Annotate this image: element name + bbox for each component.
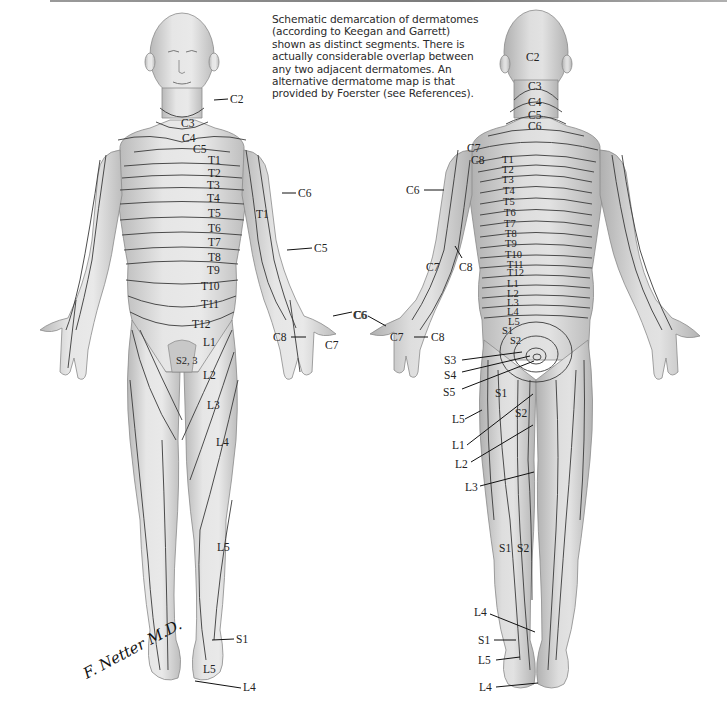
label-posterior-c6-hand: C6 (353, 309, 367, 321)
label-anterior-t2: T2 (208, 167, 221, 179)
anterior-figure (40, 13, 336, 680)
label-posterior-l2-lead: L2 (455, 458, 468, 470)
label-anterior-l5-foot: L5 (203, 663, 216, 675)
label-anterior-t1: T1 (208, 154, 221, 166)
label-posterior-c6: C6 (528, 120, 542, 132)
anterior-right-arm (242, 150, 336, 379)
label-anterior-c3: C3 (181, 117, 195, 129)
posterior-left-arm (370, 150, 472, 377)
label-anterior-c5: C5 (193, 143, 207, 155)
label-anterior-t8: T8 (208, 251, 221, 263)
label-posterior-c3: C3 (528, 80, 542, 92)
label-posterior-s1-calf: S1 (499, 542, 511, 554)
label-anterior-t4: T4 (207, 192, 220, 204)
label-anterior-s23: S2, 3 (176, 355, 198, 366)
label-anterior-t6: T6 (208, 222, 221, 234)
label-posterior-c7: C7 (467, 142, 481, 154)
label-anterior-l2: L2 (203, 369, 216, 381)
label-anterior-t3: T3 (207, 179, 220, 191)
label-anterior-c7-hand: C7 (325, 339, 339, 351)
label-anterior-c8-hand: C8 (273, 331, 287, 343)
label-anterior-l3: L3 (207, 399, 220, 411)
label-posterior-c8-arm: C8 (459, 261, 473, 273)
label-posterior-l1-lead: L1 (452, 439, 465, 451)
label-anterior-s1-foot: S1 (236, 633, 248, 645)
label-anterior-l4-foot: L4 (243, 681, 256, 693)
posterior-right-arm (600, 150, 700, 379)
label-posterior-s1-ankle: S1 (478, 634, 490, 646)
label-posterior-l5-ankle: L5 (478, 654, 491, 666)
label-anterior-l5: L5 (217, 541, 230, 553)
label-posterior-t5: T5 (503, 196, 515, 207)
label-anterior-l1: L1 (203, 336, 216, 348)
label-anterior-c5-arm: C5 (314, 242, 328, 254)
label-posterior-l3-lead: L3 (465, 481, 478, 493)
label-posterior-t6: T6 (504, 207, 516, 218)
dermatome-illustration: C2 C3 C4 C5 T1 T2 T3 T4 T5 T6 T7 T8 T9 T… (0, 0, 727, 719)
label-posterior-c8: C8 (471, 154, 485, 166)
anterior-left-arm (40, 150, 122, 379)
label-posterior-t3: T3 (502, 174, 514, 185)
label-posterior-s4: S4 (444, 369, 456, 381)
label-anterior-c6-arm: C6 (298, 187, 312, 199)
label-posterior-c6-arm: C6 (406, 184, 420, 196)
label-posterior-s3: S3 (444, 354, 456, 366)
label-posterior-s5: S5 (443, 386, 455, 398)
label-posterior-c7-hand: C7 (390, 331, 404, 343)
label-posterior-t12: T12 (507, 267, 524, 278)
label-anterior-c2: C2 (230, 93, 244, 105)
label-anterior-t11: T11 (201, 298, 219, 310)
label-anterior-t7: T7 (208, 236, 221, 248)
label-posterior-l4-ankle: L4 (474, 606, 487, 618)
label-posterior-l5-lead: L5 (452, 413, 465, 425)
label-posterior-c7-arm: C7 (426, 261, 440, 273)
label-posterior-t9: T9 (505, 238, 517, 249)
posterior-torso (470, 118, 602, 360)
label-anterior-t5: T5 (208, 207, 221, 219)
label-posterior-c8-hand: C8 (431, 331, 445, 343)
label-anterior-t9: T9 (207, 264, 220, 276)
label-anterior-l4: L4 (216, 436, 229, 448)
label-posterior-l4-sole: L4 (479, 681, 492, 693)
label-posterior-t4: T4 (503, 185, 515, 196)
label-posterior-s2: S2 (510, 335, 521, 346)
label-posterior-s1-thigh: S1 (495, 387, 507, 399)
label-posterior-c2: C2 (526, 51, 540, 63)
label-posterior-s2-calf: S2 (517, 542, 529, 554)
label-anterior-t1-arm: T1 (256, 208, 269, 220)
label-posterior-c4: C4 (528, 96, 542, 108)
label-posterior-s2-thigh: S2 (515, 407, 527, 419)
label-anterior-t12: T12 (192, 318, 211, 330)
label-anterior-t10: T10 (201, 280, 220, 292)
